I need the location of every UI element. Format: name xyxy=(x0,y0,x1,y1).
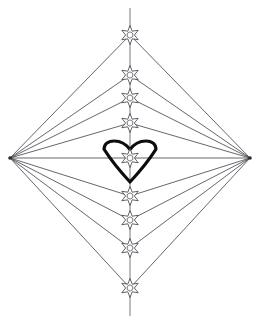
star-lower-8 xyxy=(122,239,138,258)
ray-right-to-star-bottom-9 xyxy=(130,158,250,288)
star-top-1-outline xyxy=(122,26,138,45)
left-convergence-point xyxy=(8,156,12,160)
ray-left-to-star-upper-2 xyxy=(10,75,130,158)
star-top-1 xyxy=(122,26,138,45)
star-upper-3-outline xyxy=(122,89,138,108)
star-lower-6-outline xyxy=(122,187,138,206)
star-heart-diamond-figure xyxy=(0,0,260,322)
star-lower-6 xyxy=(122,187,138,206)
star-upper-4-outline xyxy=(122,114,138,133)
ray-left-to-star-lower-7 xyxy=(10,158,130,220)
ray-right-to-star-lower-8 xyxy=(130,158,250,248)
artwork-canvas xyxy=(0,0,260,322)
star-upper-2-outline xyxy=(122,66,138,85)
star-lower-8-outline xyxy=(122,239,138,258)
ray-right-to-star-upper-2 xyxy=(130,75,250,158)
right-convergence-point xyxy=(248,156,252,160)
star-upper-3 xyxy=(122,89,138,108)
star-group xyxy=(122,26,138,298)
ray-left-to-star-lower-8 xyxy=(10,158,130,248)
ray-left-to-star-bottom-9 xyxy=(10,158,130,288)
star-upper-4 xyxy=(122,114,138,133)
star-lower-7-outline xyxy=(122,211,138,230)
star-upper-2 xyxy=(122,66,138,85)
star-lower-7 xyxy=(122,211,138,230)
ray-right-to-star-lower-7 xyxy=(130,158,250,220)
